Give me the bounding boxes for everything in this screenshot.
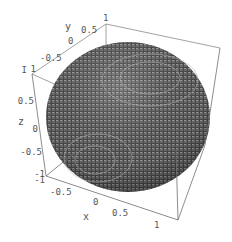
x-tick-0.5: 0.5 xyxy=(112,208,128,218)
z-axis: I 1 0.5 0 -0.5 -1 -1 z xyxy=(18,64,45,185)
z-tick-1: 1 xyxy=(31,64,36,74)
z-tick-0: 0 xyxy=(33,124,38,134)
voxel-sphere xyxy=(46,42,210,192)
z-tick-minus-1-alt: -1 xyxy=(34,175,45,185)
y-tick-0: 0 xyxy=(68,36,73,46)
x-axis-label: x xyxy=(83,211,89,222)
voxel-sphere-plot: I 1 0.5 0 -0.5 -1 -1 z -0.5 0 0.5 1 y -0… xyxy=(0,0,232,242)
z-tick-0.5: 0.5 xyxy=(18,96,34,106)
x-tick-minus-0.5: -0.5 xyxy=(50,187,72,197)
z-tick-minus-0.5: -0.5 xyxy=(20,147,42,157)
y-tick-1: 1 xyxy=(103,13,108,23)
z-tick-top-extra: I xyxy=(22,65,27,75)
y-tick-0.5: 0.5 xyxy=(81,25,97,35)
y-tick-minus-0.5: -0.5 xyxy=(40,53,62,63)
x-tick-0: 0 xyxy=(93,197,98,207)
y-axis-label: y xyxy=(65,21,71,32)
z-axis-label: z xyxy=(18,116,24,127)
x-tick-1: 1 xyxy=(154,220,159,230)
